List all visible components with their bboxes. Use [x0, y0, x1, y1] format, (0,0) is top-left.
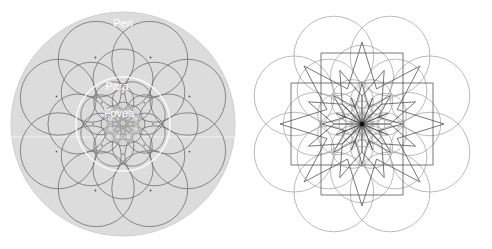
- retina-region-svg: Peri Para Fovea: [0, 0, 246, 249]
- peri-label: Peri: [113, 17, 133, 29]
- para-label: Para: [105, 80, 129, 92]
- star-geometry-svg: [246, 0, 492, 249]
- star-geometry-diagram: [246, 0, 492, 249]
- star-center: [360, 122, 365, 127]
- retina-region-diagram: Peri Para Fovea: [0, 0, 246, 249]
- fovea-label: Fovea: [104, 107, 135, 119]
